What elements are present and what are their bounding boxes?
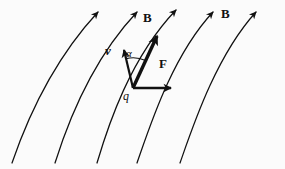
magnetic-field-vector xyxy=(133,36,157,88)
field-label-right: B xyxy=(221,7,230,20)
lorentz-force-diagram: B B v F q α xyxy=(0,0,285,169)
field-line-3 xyxy=(97,10,176,163)
magnetic-field-vector-label: B xyxy=(143,11,152,24)
alpha-angle-label: α xyxy=(126,48,132,59)
velocity-vector-label: v xyxy=(105,44,111,57)
field-line-5 xyxy=(180,12,256,163)
force-vector-label: F xyxy=(159,57,167,70)
charge-label: q xyxy=(123,90,129,102)
diagram-canvas xyxy=(0,0,285,169)
